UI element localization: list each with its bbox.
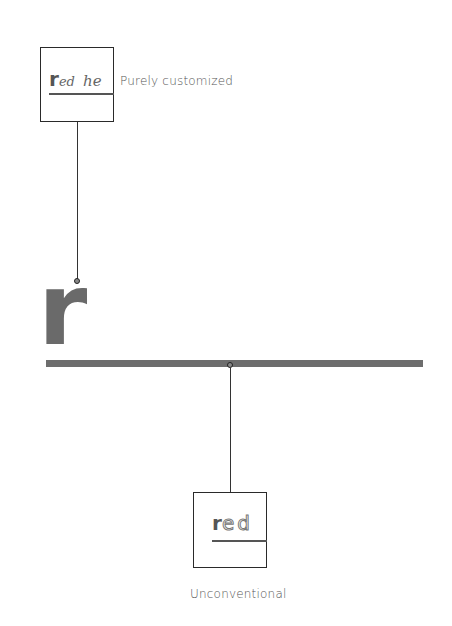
bottom-sample-dotted: ed xyxy=(222,511,253,535)
bottom-node-label: Unconventional xyxy=(190,587,287,601)
center-glyph: r xyxy=(38,260,87,360)
baseline-bar xyxy=(46,360,423,367)
bottom-connector-line xyxy=(230,368,231,492)
top-sample-script2: he xyxy=(83,72,102,90)
top-sample-script: ed xyxy=(59,74,75,89)
bottom-node-box: red xyxy=(193,492,267,568)
top-sample-bold: r xyxy=(49,67,59,91)
top-node-sample: red he xyxy=(49,67,102,91)
bottom-node-underline xyxy=(212,540,267,542)
top-node-label: Purely customized xyxy=(120,74,233,88)
bottom-node-sample: red xyxy=(212,511,253,535)
top-node-underline xyxy=(49,93,114,95)
top-node-box: red he xyxy=(40,47,114,122)
bottom-sample-bold: r xyxy=(212,511,222,535)
